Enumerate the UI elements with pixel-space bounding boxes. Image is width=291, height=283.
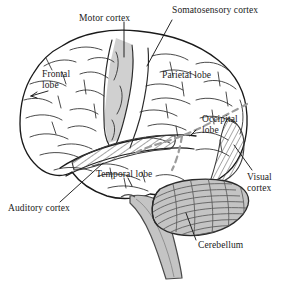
label-somatosensory-cortex: Somatosensory cortex bbox=[172, 5, 258, 16]
label-cerebellum: Cerebellum bbox=[198, 240, 243, 251]
label-visual-cortex-line2: cortex bbox=[247, 183, 272, 194]
label-frontal-lobe-line1: Frontal bbox=[42, 69, 70, 80]
cerebellum bbox=[152, 178, 249, 240]
label-visual-cortex-line1: Visual bbox=[247, 172, 272, 183]
label-motor-cortex: Motor cortex bbox=[79, 13, 130, 24]
label-frontal-lobe-line2: lobe bbox=[42, 80, 70, 91]
brain-diagram: Motor cortex Somatosensory cortex Fronta… bbox=[0, 0, 291, 283]
label-occipital-lobe: Occipital lobe bbox=[202, 114, 238, 135]
label-frontal-lobe: Frontal lobe bbox=[42, 69, 70, 90]
label-temporal-lobe: Temporal lobe bbox=[96, 169, 152, 180]
label-occipital-lobe-line1: Occipital bbox=[202, 114, 238, 125]
label-parietal-lobe: Parietal lobe bbox=[162, 70, 211, 81]
label-occipital-lobe-line2: lobe bbox=[202, 125, 238, 136]
label-auditory-cortex: Auditory cortex bbox=[8, 203, 70, 214]
label-visual-cortex: Visual cortex bbox=[247, 172, 272, 193]
brain-illustration bbox=[0, 0, 291, 283]
